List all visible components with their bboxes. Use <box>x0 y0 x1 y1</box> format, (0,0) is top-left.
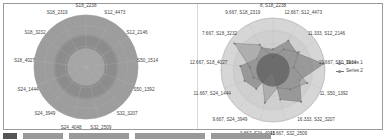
axis-label: 12.667, S12_4473 <box>284 10 322 15</box>
axis-label: 11, S50_1392 <box>320 91 348 96</box>
legend-item-series-2[interactable]: Series 2 <box>335 70 379 77</box>
axis-label: 11.667, S24_1444 <box>194 91 231 96</box>
data-point[interactable] <box>276 87 278 89</box>
axis-label: S24_4048 <box>61 125 82 130</box>
legend-label-series-1: Series 1 <box>346 60 363 65</box>
data-point[interactable] <box>272 48 274 50</box>
axis-label: S50_1514 <box>137 57 158 62</box>
axis-label: 11.333, S12_2146 <box>308 31 345 36</box>
axis-label: S24_3949 <box>34 111 55 116</box>
figure-caption-redacted <box>3 131 383 140</box>
axis-label: S32_3207 <box>117 111 138 116</box>
axis-label: 16.333, S32_3207 <box>297 116 335 121</box>
axis-label: 8, S18_2238 <box>260 3 286 8</box>
data-point[interactable] <box>300 101 302 103</box>
data-point[interactable] <box>298 51 300 53</box>
data-point[interactable] <box>287 40 289 42</box>
axis-label: S50_1392 <box>133 86 154 91</box>
data-point[interactable] <box>293 66 295 68</box>
axis-label: 9.667, S18_2319 <box>225 10 260 15</box>
axis-label: S12_2146 <box>127 29 148 34</box>
data-point[interactable] <box>239 65 241 67</box>
axis-label: S32_2509 <box>90 125 111 130</box>
data-point[interactable] <box>249 66 251 68</box>
axis-label: 12.667, S18_4027 <box>190 60 228 65</box>
legend-dot-icon <box>338 70 341 73</box>
axis-label: S18_3232 <box>24 29 45 34</box>
axis-label: 7.667, S18_3232 <box>202 31 237 36</box>
axis-label: S18_4027 <box>14 57 35 62</box>
data-point[interactable] <box>244 80 246 82</box>
legend-dot-icon <box>338 62 341 65</box>
legend-label-series-2: Series 2 <box>346 68 363 73</box>
axis-label: S18_2319 <box>47 10 68 15</box>
data-point[interactable] <box>264 102 266 104</box>
data-point[interactable] <box>289 88 291 90</box>
data-point[interactable] <box>306 82 308 84</box>
data-point[interactable] <box>255 88 257 90</box>
left-radar-chart <box>34 15 138 119</box>
axis-label: S24_1444 <box>18 86 39 91</box>
axis-label: S12_4473 <box>104 10 125 15</box>
data-point[interactable] <box>279 98 281 100</box>
data-point[interactable] <box>283 48 285 50</box>
axis-label: 9.667, S24_3949 <box>212 116 247 121</box>
axis-label: S18_2238 <box>76 3 97 8</box>
data-point[interactable] <box>233 42 235 44</box>
data-point[interactable] <box>253 76 255 78</box>
data-point[interactable] <box>259 44 261 46</box>
legend: Series 1 Series 2 <box>335 62 379 78</box>
